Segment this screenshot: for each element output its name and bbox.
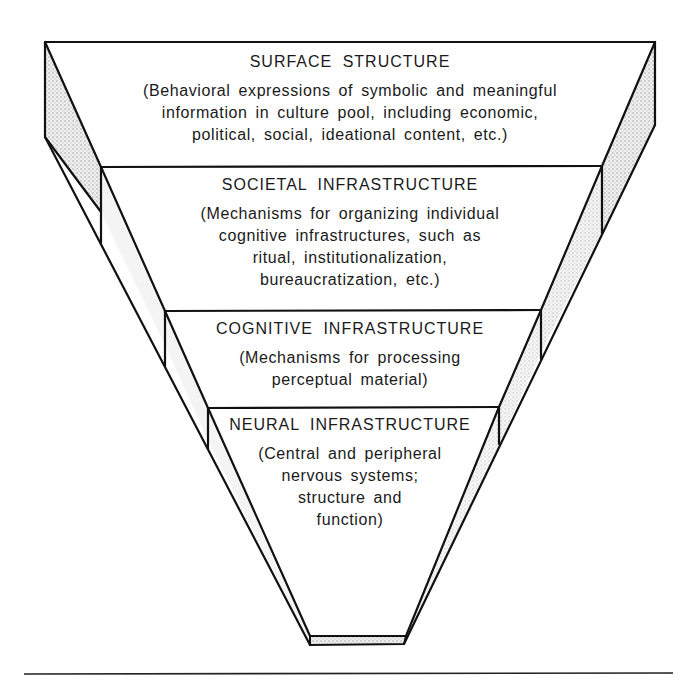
tier-neural-infrastructure: NEURAL INFRASTRUCTURE (Central and perip… <box>0 415 700 531</box>
tier-title: SOCIETAL INFRASTRUCTURE <box>0 175 700 195</box>
tier-cognitive-infrastructure: COGNITIVE INFRASTRUCTURE (Mechanisms for… <box>0 319 700 391</box>
tier-surface-structure: SURFACE STRUCTURE (Behavioral expression… <box>0 52 700 146</box>
tier-title: NEURAL INFRASTRUCTURE <box>0 415 700 435</box>
tier-description: (Behavioral expressions of symbolic and … <box>0 80 700 146</box>
tier-description: (Mechanisms for organizing individual co… <box>0 203 700 291</box>
footer-rule <box>24 673 673 674</box>
tier-title: SURFACE STRUCTURE <box>0 52 700 72</box>
bottom-base <box>310 636 406 645</box>
tier-description: (Central and peripheral nervous systems;… <box>0 443 700 531</box>
tier-societal-infrastructure: SOCIETAL INFRASTRUCTURE (Mechanisms for … <box>0 175 700 291</box>
tier-title: COGNITIVE INFRASTRUCTURE <box>0 319 700 339</box>
tier-description: (Mechanisms for processing perceptual ma… <box>0 347 700 391</box>
